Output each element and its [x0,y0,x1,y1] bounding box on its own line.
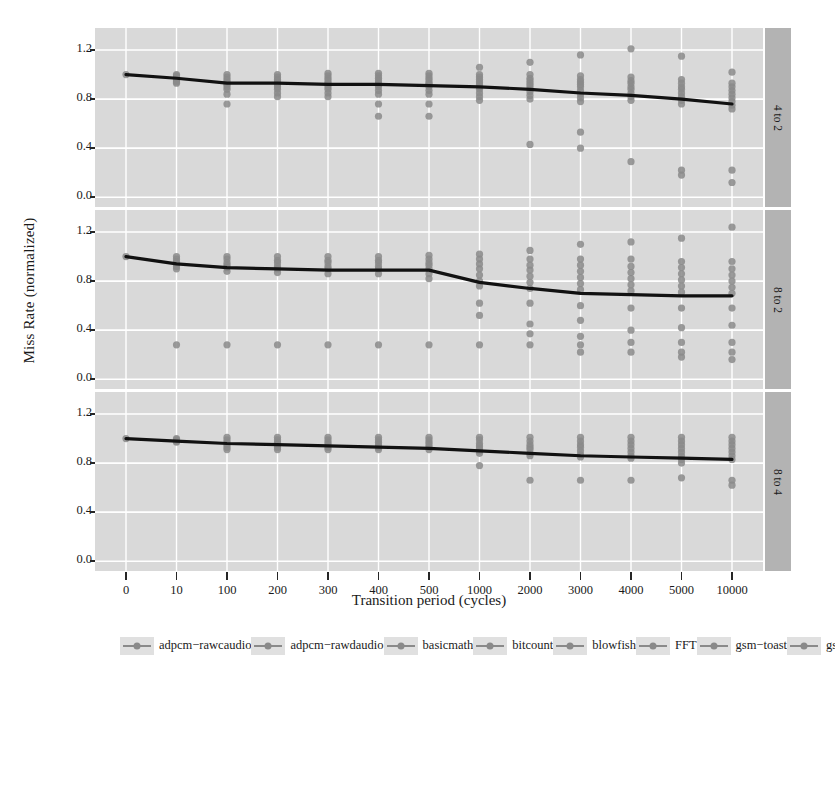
data-point [476,265,483,272]
data-point [526,477,533,484]
data-point [173,341,180,348]
legend-item[interactable]: FFT [636,637,697,655]
data-point [627,349,634,356]
legend-key-icon [384,637,418,655]
legend-label: adpcm−rawcaudio [159,638,251,653]
legend-item[interactable]: bitcount [473,637,553,655]
faceted-scatter-figure: Miss Rate (normalized) 0.00.40.81.20.00.… [0,0,835,788]
data-point [728,356,735,363]
data-point [526,279,533,286]
data-point [476,300,483,307]
legend-item[interactable]: adpcm−rawcaudio [120,637,251,655]
y-tick-label: 0.8 [34,272,92,287]
data-point [476,312,483,319]
data-point [678,258,685,265]
data-point [678,53,685,60]
data-point [577,333,584,340]
legend-item[interactable]: gsm−untoast [787,637,835,655]
data-point [728,278,735,285]
legend-item[interactable]: blowfish [553,637,636,655]
strip-label-8-to-2: 8 to 2 [765,210,791,389]
data-point [526,247,533,254]
y-tick-label: 0.0 [34,188,92,203]
legend-item[interactable]: gsm−toast [697,637,788,655]
data-point [728,284,735,291]
data-point [476,64,483,71]
data-point [526,141,533,148]
strip-label-4-to-2: 4 to 2 [765,28,791,207]
data-point [728,179,735,186]
data-point [627,255,634,262]
data-point [728,322,735,329]
legend-item[interactable]: adpcm−rawdaudio [251,637,383,655]
legend-key-icon [120,637,154,655]
data-point [728,339,735,346]
data-point [577,255,584,262]
x-tick-mark [529,572,530,580]
y-tick-label: 0.4 [34,321,92,336]
data-point [627,238,634,245]
data-point [274,341,281,348]
x-tick-mark [378,572,379,580]
legend-key-icon [553,637,587,655]
legend-key-icon [787,637,821,655]
legend-item[interactable]: basicmath [384,637,474,655]
data-point [526,266,533,273]
data-point [627,327,634,334]
legend-key-icon [251,637,285,655]
x-tick-mark [630,572,631,580]
y-tick-label: 1.2 [34,41,92,56]
data-point [728,265,735,272]
y-tick-label: 0.4 [34,139,92,154]
data-point [274,446,281,453]
data-point [627,97,634,104]
data-point [526,330,533,337]
data-point [728,304,735,311]
x-tick-mark [428,572,429,580]
data-point [678,270,685,277]
data-point [728,482,735,489]
data-point [526,320,533,327]
data-point [627,477,634,484]
data-point [678,282,685,289]
chart-root: Miss Rate (normalized) 0.00.40.81.20.00.… [0,0,835,788]
data-point [375,341,382,348]
x-tick-mark [327,572,328,580]
data-point [627,45,634,52]
legend-label: bitcount [512,638,553,653]
data-point [425,91,432,98]
legend-label: blowfish [592,638,636,653]
data-point [577,302,584,309]
data-point [627,304,634,311]
data-point [425,113,432,120]
data-point [627,269,634,276]
data-point [678,339,685,346]
data-point [678,460,685,467]
y-tick-label: 1.2 [34,405,92,420]
data-point [728,105,735,112]
data-point [577,262,584,269]
panel-plot-area [95,28,763,207]
data-point [627,263,634,270]
data-point [728,224,735,231]
panel-stack [95,28,763,570]
data-point [577,274,584,281]
data-point [375,91,382,98]
data-point [678,172,685,179]
data-point [678,264,685,271]
legend-label: gsm−untoast [826,638,835,653]
y-tick-label: 0.8 [34,90,92,105]
legend-label: FFT [675,638,697,653]
data-point [678,354,685,361]
data-point [476,462,483,469]
data-point [223,446,230,453]
data-point [627,158,634,165]
data-point [577,280,584,287]
x-tick-mark [681,572,682,580]
panel-plot-area [95,392,763,571]
data-point [678,474,685,481]
x-tick-mark [226,572,227,580]
y-tick-label: 0.0 [34,552,92,567]
data-point [678,324,685,331]
data-point [678,235,685,242]
